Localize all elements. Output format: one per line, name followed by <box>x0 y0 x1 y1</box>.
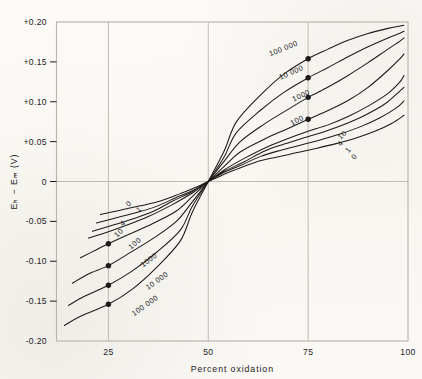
curve-label-right-100000: 100 000 <box>268 39 299 59</box>
curve-label-left-100000: 100 000 <box>130 293 160 318</box>
y-tick-label-+0.05: +0.05 <box>24 137 48 147</box>
curve-label-left-4: 4 <box>118 218 127 228</box>
data-point-100-75 <box>305 117 310 122</box>
x-tick-label-50: 50 <box>203 347 213 357</box>
data-point-1000-25 <box>106 263 111 268</box>
data-point-100000-75 <box>305 56 310 61</box>
y-tick-label--0.15: -0.15 <box>26 296 47 306</box>
y-tick-label-+0.20: +0.20 <box>24 17 48 27</box>
data-point-100-25 <box>106 241 111 246</box>
x-tick-label-25: 25 <box>103 347 113 357</box>
axis-tick-labels: +0.20+0.15+0.10+0.050-0.05-0.10-0.15-0.2… <box>24 17 416 357</box>
data-point-100000-25 <box>106 302 111 307</box>
y-tick-label--0.05: -0.05 <box>26 216 47 226</box>
data-point-10000-25 <box>106 282 111 287</box>
y-tick-label-+0.10: +0.10 <box>24 97 48 107</box>
x-tick-label-100: 100 <box>400 347 415 357</box>
curve-label-left-1000: 1000 <box>139 251 159 269</box>
x-tick-label-75: 75 <box>303 347 313 357</box>
y-tick-label--0.20: -0.20 <box>26 336 47 346</box>
x-axis-title: Percent oxidation <box>191 364 274 374</box>
data-point-10000-75 <box>305 75 310 80</box>
axis-ticks <box>50 62 57 301</box>
curve-label-right-0: 0 <box>349 152 359 161</box>
chart-canvas: 01410100100010 000100 000100 00010 00010… <box>0 0 422 379</box>
curve-label-right-100: 100 <box>289 113 305 127</box>
curve-label-left-100: 100 <box>127 235 143 251</box>
curve-label-left-10000: 10 000 <box>144 270 170 292</box>
curve-label-right-10000: 10 000 <box>278 63 305 82</box>
y-tick-label--0.10: -0.10 <box>26 256 47 266</box>
curve-labels: 01410100100010 000100 000100 00010 00010… <box>112 39 359 318</box>
gridlines <box>57 22 409 341</box>
curve-label-left-0: 0 <box>124 199 133 209</box>
figure-root: 01410100100010 000100 000100 00010 00010… <box>0 0 422 379</box>
y-axis-title: Eₕ − Eₘ (V) <box>9 154 19 210</box>
curve-0 <box>100 115 404 214</box>
curve-100000 <box>64 25 404 325</box>
y-tick-label-+0.15: +0.15 <box>24 57 48 67</box>
curve-group <box>64 25 404 325</box>
y-tick-label-0: 0 <box>42 177 47 187</box>
